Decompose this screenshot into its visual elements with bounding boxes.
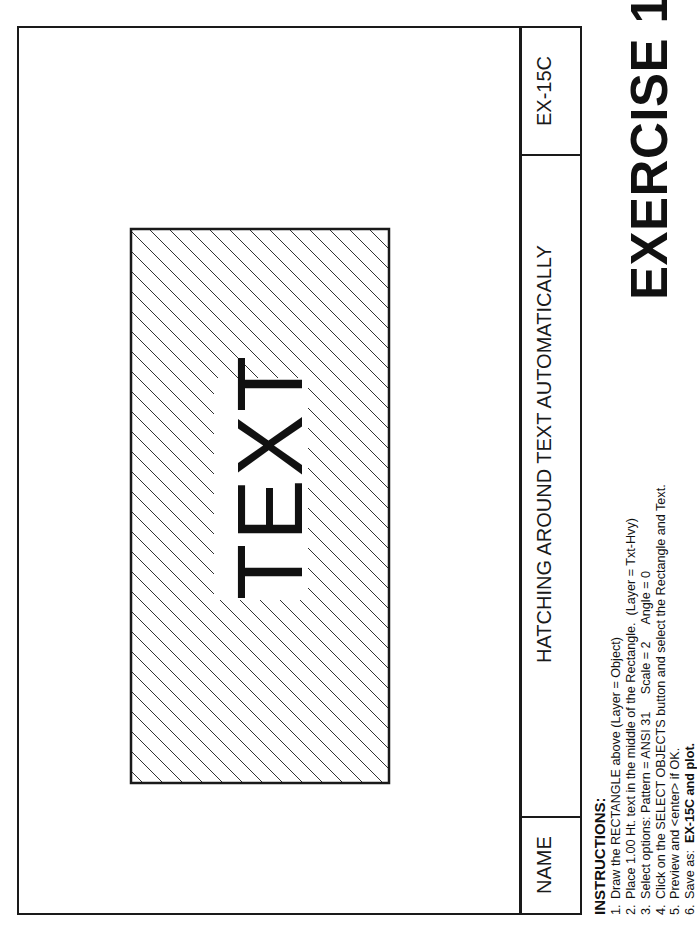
hatch-line bbox=[131, 71, 409, 349]
instructions-list: 1. Draw the RECTANGLE above (Layer = Obj… bbox=[610, 484, 697, 915]
instruction-step-text: Click on the SELECT OBJECTS button and s… bbox=[654, 484, 668, 899]
hatch-line bbox=[131, 791, 409, 943]
instruction-step-number: 3. bbox=[640, 899, 653, 915]
instructions-block: INSTRUCTIONS: 1. Draw the RECTANGLE abov… bbox=[591, 484, 697, 915]
hatch-line bbox=[131, 611, 409, 889]
instruction-step: 2. Place 1.00 Ht. text in the middle of … bbox=[625, 484, 638, 915]
title-block-drawing-number: EX-15C bbox=[533, 56, 556, 126]
instruction-step: 6. Save as: EX-15C and plot. bbox=[684, 484, 697, 915]
instruction-step: 5. Preview and <enter> if OK. bbox=[669, 484, 682, 915]
instructions-heading: INSTRUCTIONS: bbox=[591, 484, 608, 915]
instruction-step-text: Save as: bbox=[683, 843, 697, 899]
hatch-line bbox=[131, 691, 409, 943]
instruction-step-number: 1. bbox=[610, 899, 623, 915]
hatch-line bbox=[131, 771, 409, 943]
exercise-title: EXERCISE 15C bbox=[620, 0, 679, 300]
hatch-line bbox=[131, 931, 409, 943]
hatch-line bbox=[131, 0, 409, 249]
instruction-step: 3. Select options: Pattern = ANSI 31 Sca… bbox=[640, 484, 653, 915]
hatch-line bbox=[131, 871, 409, 943]
hatch-line bbox=[131, 631, 409, 909]
hatch-line bbox=[131, 851, 409, 943]
instruction-step-text: Preview and <enter> if OK. bbox=[668, 748, 682, 899]
hatch-line bbox=[131, 811, 409, 943]
instruction-step-number: 6. bbox=[684, 899, 697, 915]
hatch-line bbox=[131, 911, 409, 943]
instruction-step-text: Draw the RECTANGLE above (Layer = Object… bbox=[609, 637, 623, 899]
hatch-text-label: TEXT bbox=[218, 353, 323, 600]
hatch-line bbox=[131, 111, 409, 389]
instruction-step-text: Place 1.00 Ht. text in the middle of the… bbox=[624, 518, 638, 899]
instruction-step-number: 2. bbox=[625, 899, 638, 915]
hatch-line bbox=[131, 751, 409, 943]
title-block-title: HATCHING AROUND TEXT AUTOMATICALLY bbox=[533, 245, 556, 663]
hatch-line bbox=[131, 11, 409, 289]
hatch-line bbox=[131, 711, 409, 943]
hatch-line bbox=[131, 891, 409, 943]
hatch-line bbox=[131, 591, 409, 869]
instruction-step-number: 5. bbox=[669, 899, 682, 915]
hatch-line bbox=[131, 831, 409, 943]
hatch-line bbox=[131, 51, 409, 329]
instruction-step-emphasis: EX-15C and plot. bbox=[683, 743, 697, 843]
title-block-name-label: NAME bbox=[533, 836, 556, 894]
hatch-line bbox=[131, 651, 409, 929]
hatch-line bbox=[131, 731, 409, 943]
instruction-step: 4. Click on the SELECT OBJECTS button an… bbox=[655, 484, 668, 915]
instruction-step-text: Select options: Pattern = ANSI 31 Scale … bbox=[639, 571, 653, 899]
hatch-line bbox=[131, 571, 409, 849]
instruction-step-number: 4. bbox=[655, 899, 668, 915]
instruction-step: 1. Draw the RECTANGLE above (Layer = Obj… bbox=[610, 484, 623, 915]
hatch-line bbox=[131, 671, 409, 943]
hatch-line bbox=[131, 31, 409, 309]
